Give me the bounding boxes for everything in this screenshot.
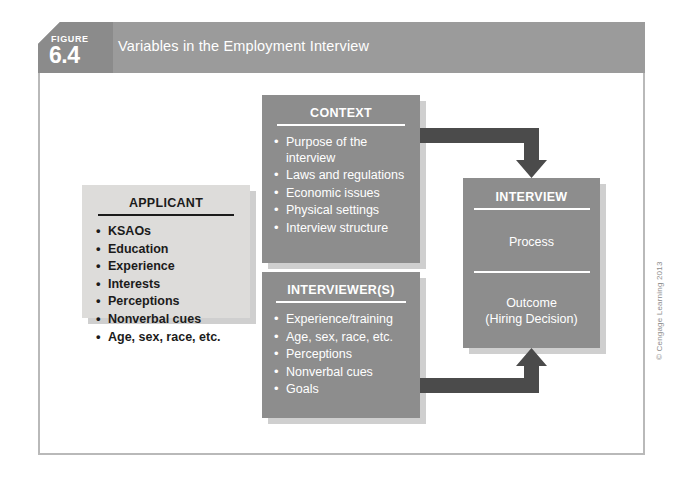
figure-diagram: FIGURE 6.4 Variables in the Employment I…	[0, 0, 690, 482]
interview-outcome-label: Outcome (Hiring Decision)	[473, 295, 590, 327]
figure-title: Variables in the Employment Interview	[118, 38, 369, 54]
list-item: Education	[96, 242, 236, 258]
context-item-list: Purpose of the interview Laws and regula…	[274, 135, 408, 237]
list-item: Age, sex, race, etc.	[274, 330, 408, 346]
interview-title-rule	[474, 208, 590, 210]
list-item: Age, sex, race, etc.	[96, 330, 236, 346]
applicant-title-rule	[98, 214, 234, 216]
figure-badge-number: 6.4	[49, 43, 79, 67]
interview-section-divider	[474, 271, 590, 273]
list-item: Interview structure	[274, 221, 408, 237]
applicant-box: APPLICANT KSAOs Education Experience Int…	[82, 185, 250, 318]
list-item: Perceptions	[274, 347, 408, 363]
interview-outcome-line2: (Hiring Decision)	[473, 311, 590, 327]
figure-number-badge: FIGURE 6.4	[38, 22, 113, 73]
applicant-item-list: KSAOs Education Experience Interests Per…	[96, 224, 236, 345]
list-item: Purpose of the interview	[274, 135, 408, 166]
interview-box: INTERVIEW Process Outcome (Hiring Decisi…	[463, 178, 600, 348]
list-item: Perceptions	[96, 294, 236, 310]
list-item: Laws and regulations	[274, 168, 408, 184]
interview-outcome-line1: Outcome	[473, 295, 590, 311]
applicant-box-title: APPLICANT	[96, 196, 236, 210]
interview-process-label: Process	[473, 235, 590, 249]
list-item: Goals	[274, 382, 408, 398]
copyright-credit: © Cengage Learning 2013	[655, 261, 664, 360]
interviewers-item-list: Experience/training Age, sex, race, etc.…	[274, 312, 408, 398]
interviewers-title-rule	[276, 301, 406, 303]
list-item: Economic issues	[274, 186, 408, 202]
list-item: Nonverbal cues	[274, 365, 408, 381]
list-item: KSAOs	[96, 224, 236, 240]
interviewers-box: INTERVIEWER(S) Experience/training Age, …	[262, 272, 420, 418]
list-item: Physical settings	[274, 203, 408, 219]
interview-box-title: INTERVIEW	[473, 190, 590, 204]
list-item: Experience	[96, 259, 236, 275]
list-item: Experience/training	[274, 312, 408, 328]
context-box: CONTEXT Purpose of the interview Laws an…	[262, 95, 420, 263]
interviewers-box-title: INTERVIEWER(S)	[274, 283, 408, 297]
context-box-title: CONTEXT	[274, 106, 408, 120]
list-item: Nonverbal cues	[96, 312, 236, 328]
context-title-rule	[277, 124, 405, 126]
list-item: Interests	[96, 277, 236, 293]
